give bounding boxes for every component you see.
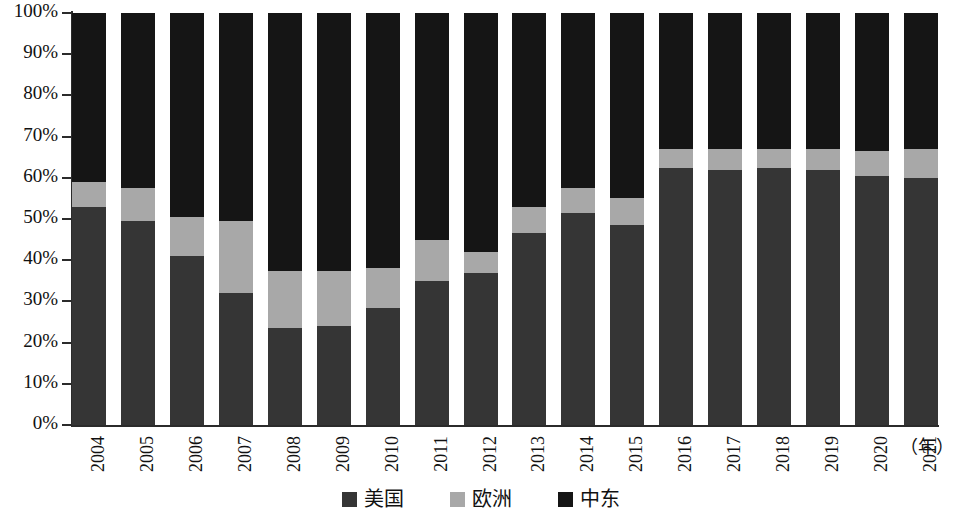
y-axis-tick-label: 70%: [23, 125, 58, 144]
chart-legend: 美国欧洲中东: [0, 484, 962, 514]
bar-column: [659, 13, 693, 425]
y-axis-tick-mark: [62, 259, 72, 261]
x-axis-label: 2014: [561, 428, 595, 490]
x-axis-labels: 2004200520062007200820092010201120122013…: [72, 428, 938, 490]
bar-segment: [170, 256, 204, 425]
y-axis-tick-label: 30%: [23, 289, 58, 308]
bar-column: [317, 13, 351, 425]
bar-column: [464, 13, 498, 425]
y-axis-tick-mark: [62, 300, 72, 302]
stacked-bar-chart: 100%90%80%70%60%50%40%30%20%10%0% 200420…: [0, 0, 962, 514]
legend-item[interactable]: 美国: [342, 489, 404, 509]
bar-segment: [464, 252, 498, 273]
x-axis-label-text: 2018: [774, 436, 792, 472]
x-axis-label: 2007: [219, 428, 253, 490]
legend-item[interactable]: 欧洲: [450, 489, 512, 509]
bar-segment: [268, 271, 302, 329]
bar-column: [904, 13, 938, 425]
bar-column: [757, 13, 791, 425]
x-axis-label-text: 2019: [823, 436, 841, 472]
bar-segment: [757, 149, 791, 168]
x-axis-label-text: 2015: [627, 436, 645, 472]
bar-segment: [757, 13, 791, 149]
x-axis-label-text: 2020: [872, 436, 890, 472]
bar-segment: [806, 149, 840, 170]
y-axis-tick-label: 50%: [23, 207, 58, 226]
x-axis-label: 2016: [659, 428, 693, 490]
bar-segment: [708, 170, 742, 425]
bar-segment: [855, 151, 889, 176]
bar-segment: [121, 188, 155, 221]
legend-item[interactable]: 中东: [558, 489, 620, 509]
x-axis-label-text: 2007: [236, 436, 254, 472]
x-axis-label: 2017: [708, 428, 742, 490]
legend-label: 欧洲: [472, 489, 512, 509]
bar-segment: [610, 198, 644, 225]
bar-segment: [317, 271, 351, 327]
bar-segment: [855, 13, 889, 151]
legend-swatch-middle-east: [558, 492, 573, 507]
y-axis-tick-label: 100%: [14, 1, 58, 20]
bar-segment: [904, 178, 938, 425]
bar-column: [512, 13, 546, 425]
bar-segment: [708, 13, 742, 149]
bar-column: [561, 13, 595, 425]
bar-segment: [464, 273, 498, 425]
bar-segment: [170, 217, 204, 256]
y-axis-tick-mark: [62, 136, 72, 138]
bar-column: [415, 13, 449, 425]
bar-segment: [219, 221, 253, 293]
x-axis-label: 2013: [512, 428, 546, 490]
bar-segment: [366, 268, 400, 307]
bar-segment: [72, 13, 106, 182]
x-axis-label-text: 2012: [481, 436, 499, 472]
x-axis-label: 2009: [317, 428, 351, 490]
bar-segment: [512, 207, 546, 234]
bar-segment: [561, 188, 595, 213]
legend-swatch-europe: [450, 492, 465, 507]
x-axis-label: 2020: [855, 428, 889, 490]
x-axis-label-text: 2005: [138, 436, 156, 472]
bar-segment: [317, 326, 351, 425]
bar-segment: [121, 13, 155, 188]
x-axis-label-text: 2010: [383, 436, 401, 472]
x-axis-label-text: 2016: [676, 436, 694, 472]
bar-segment: [659, 149, 693, 168]
bar-group: [72, 13, 938, 425]
x-axis-label: 2012: [464, 428, 498, 490]
bar-segment: [806, 170, 840, 425]
bar-segment: [512, 13, 546, 207]
bar-segment: [317, 13, 351, 271]
x-axis-unit-label: （年）: [900, 432, 954, 458]
y-axis-tick-mark: [62, 94, 72, 96]
bar-segment: [464, 13, 498, 252]
x-axis-label-text: 2004: [89, 436, 107, 472]
bar-segment: [366, 13, 400, 268]
bar-segment: [219, 13, 253, 221]
y-axis-tick-mark: [62, 342, 72, 344]
bar-column: [219, 13, 253, 425]
y-axis-tick-mark: [62, 53, 72, 55]
bar-segment: [659, 13, 693, 149]
y-axis-tick-label: 0%: [33, 413, 58, 432]
x-axis-label-text: 2013: [529, 436, 547, 472]
x-axis-label: 2006: [170, 428, 204, 490]
x-axis-label: 2005: [121, 428, 155, 490]
x-axis-label: 2011: [415, 428, 449, 490]
bar-column: [366, 13, 400, 425]
bar-segment: [659, 168, 693, 426]
bar-column: [72, 13, 106, 425]
bar-segment: [610, 13, 644, 198]
x-axis-label-text: 2009: [334, 436, 352, 472]
bar-segment: [806, 13, 840, 149]
x-axis-label: 2008: [268, 428, 302, 490]
bar-segment: [415, 240, 449, 281]
y-axis-tick-label: 10%: [23, 372, 58, 391]
bar-column: [806, 13, 840, 425]
bar-segment: [219, 293, 253, 425]
legend-label: 美国: [364, 489, 404, 509]
x-axis-label-text: 2011: [432, 436, 450, 471]
bar-segment: [610, 225, 644, 425]
bar-segment: [170, 13, 204, 217]
bar-column: [268, 13, 302, 425]
